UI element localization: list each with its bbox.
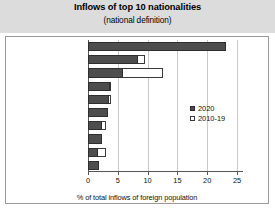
bar-row [88,148,243,157]
x-tick-label: 10 [138,176,158,185]
bar-row [88,68,243,77]
bar-2020 [88,95,109,104]
bar-2020 [88,161,99,170]
x-tick [118,172,119,175]
x-tick-label: 15 [167,176,187,185]
bar-2020 [88,134,102,143]
x-tick-label: 25 [227,176,247,185]
legend-swatch-hollow-icon [190,116,195,121]
x-tick [177,172,178,175]
x-tick [237,172,238,175]
x-tick-label: 5 [108,176,128,185]
chart-title: Inflows of top 10 nationalities [0,2,275,12]
x-tick-label: 20 [197,176,217,185]
bar-row [88,55,243,64]
chart-figure: Inflows of top 10 nationalities (nationa… [0,0,275,210]
legend-swatch-filled-icon [190,106,195,111]
bar-2020 [88,42,226,51]
x-tick [88,172,89,175]
x-axis-line [88,171,243,172]
legend-item-2010-19: 2010-19 [190,113,225,123]
bar-2020 [88,82,110,91]
legend-item-2020: 2020 [190,103,225,113]
bar-row [88,161,243,170]
x-tick-label: 0 [78,176,98,185]
bar-row [88,82,243,91]
bar-2020 [88,68,123,77]
x-axis-title: % of total inflows of foreign population [5,193,269,202]
x-tick [148,172,149,175]
x-tick [207,172,208,175]
bar-row [88,134,243,143]
chart-legend: 2020 2010-19 [190,103,225,123]
legend-label: 2010-19 [198,114,225,123]
bar-2020 [88,121,102,130]
bar-2020 [88,55,138,64]
legend-label: 2020 [198,104,214,113]
chart-subtitle: (national definition) [0,15,275,25]
bar-row [88,42,243,51]
bar-2020 [88,148,98,157]
bar-2020 [88,108,108,117]
